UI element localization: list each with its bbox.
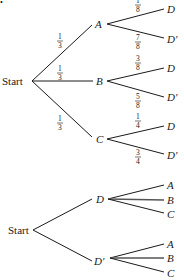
prob-a-dprime: 7 8 xyxy=(135,33,141,51)
edge-dprime-c xyxy=(110,258,164,272)
svg-text:8: 8 xyxy=(136,63,140,72)
svg-text:4: 4 xyxy=(136,121,140,130)
leaf-d-b: B xyxy=(167,194,174,206)
svg-text:3: 3 xyxy=(58,123,62,132)
edge-d-a xyxy=(108,185,164,199)
svg-text:1: 1 xyxy=(58,114,62,123)
edge-start-d xyxy=(33,199,92,230)
leaf-a-d: D xyxy=(166,3,175,15)
tree-2: Start D D′ A B C A B C xyxy=(8,179,175,279)
prob-b-d: 3 8 xyxy=(135,54,141,72)
svg-text:1: 1 xyxy=(136,112,140,121)
node-b: B xyxy=(96,75,103,87)
edge-start-a xyxy=(32,25,92,81)
svg-text:3: 3 xyxy=(58,73,62,82)
node-d: D xyxy=(95,193,104,205)
svg-text:3: 3 xyxy=(136,54,140,63)
prob-b-dprime: 5 8 xyxy=(135,92,141,110)
prob-start-c: 1 3 xyxy=(57,114,63,132)
leaf-dprime-a: A xyxy=(166,238,174,250)
leaf-d-c: C xyxy=(167,208,175,220)
svg-text:8: 8 xyxy=(136,101,140,110)
leaf-c-d: D xyxy=(166,120,175,132)
svg-text:8: 8 xyxy=(136,42,140,51)
svg-text:4: 4 xyxy=(136,157,140,166)
leaf-d-a: A xyxy=(166,179,174,191)
corner-marker: • xyxy=(0,0,3,7)
node-a: A xyxy=(94,18,102,30)
svg-text:3: 3 xyxy=(136,148,140,157)
prob-start-a: 1 3 xyxy=(57,32,63,50)
tree-1: Start 1 3 1 3 1 3 A B C 1 8 xyxy=(2,0,178,166)
node-dprime: D′ xyxy=(93,255,105,267)
edge-d-b xyxy=(108,199,164,200)
probability-tree-diagrams: • Start 1 3 1 3 1 3 A B C 1 xyxy=(0,0,184,280)
prob-start-b: 1 3 xyxy=(57,64,63,82)
svg-text:3: 3 xyxy=(58,41,62,50)
edge-dprime-a xyxy=(110,244,164,258)
svg-text:1: 1 xyxy=(58,64,62,73)
leaf-a-dprime: D′ xyxy=(166,33,178,45)
tree2-start-label: Start xyxy=(8,224,29,236)
edge-start-c xyxy=(32,81,92,137)
prob-c-d: 1 4 xyxy=(135,112,141,130)
svg-text:8: 8 xyxy=(136,5,140,14)
svg-text:5: 5 xyxy=(136,92,140,101)
tree1-start-label: Start xyxy=(2,75,23,87)
svg-text:1: 1 xyxy=(58,32,62,41)
edge-start-dprime xyxy=(33,230,92,261)
leaf-dprime-c: C xyxy=(167,267,175,279)
leaf-c-dprime: D′ xyxy=(166,149,178,161)
svg-text:7: 7 xyxy=(136,33,140,42)
leaf-b-dprime: D′ xyxy=(166,91,178,103)
edge-d-c xyxy=(108,199,164,213)
prob-a-d: 1 8 xyxy=(135,0,141,14)
node-c: C xyxy=(96,133,104,145)
leaf-dprime-b: B xyxy=(167,252,174,264)
leaf-b-d: D xyxy=(166,62,175,74)
prob-c-dprime: 3 4 xyxy=(135,148,141,166)
